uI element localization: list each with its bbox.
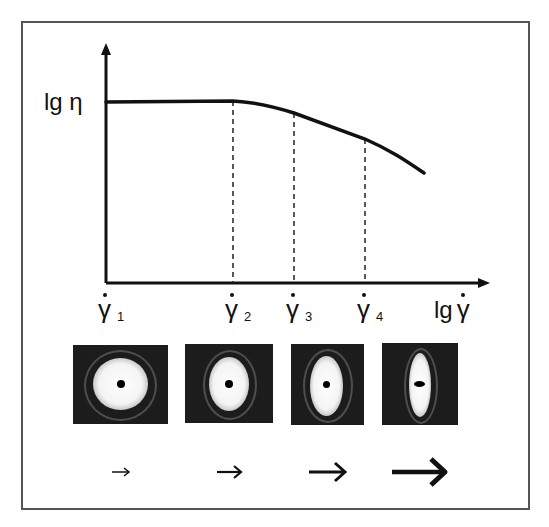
y-axis-arrow-icon bbox=[101, 43, 111, 55]
gamma-dot-icon: γ bbox=[225, 296, 238, 322]
scattering-pattern-3 bbox=[291, 344, 364, 425]
gamma-dot-icon: γ bbox=[357, 296, 370, 322]
gamma-dot-icon: γ bbox=[98, 296, 111, 322]
scattering-pattern-4 bbox=[382, 343, 458, 425]
scattering-pattern-1 bbox=[73, 345, 168, 424]
tick-gamma1: γ1 bbox=[98, 296, 124, 323]
viscosity-curve bbox=[106, 101, 424, 173]
flow-arrow-2 bbox=[217, 466, 241, 478]
tick-gamma3: γ3 bbox=[286, 296, 312, 323]
tick-gamma2: γ2 bbox=[225, 296, 251, 323]
gamma-dot-icon: γ bbox=[286, 296, 299, 322]
x-axis-label: lgγ bbox=[434, 296, 470, 322]
flow-arrow-4 bbox=[392, 459, 445, 485]
flow-arrow-3 bbox=[309, 463, 345, 481]
y-axis-label: lg η bbox=[44, 88, 83, 116]
flow-arrow-1 bbox=[112, 468, 129, 476]
scattering-pattern-2 bbox=[185, 344, 273, 423]
x-axis-arrow-icon bbox=[478, 278, 490, 288]
tick-gamma4: γ4 bbox=[357, 296, 383, 323]
viscosity-chart bbox=[0, 0, 549, 527]
